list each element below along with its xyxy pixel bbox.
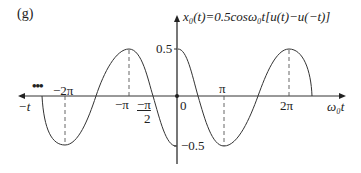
tick-neg-2pi: −2π (53, 84, 73, 97)
tick-pi: π (219, 82, 226, 95)
origin-dot (175, 94, 179, 98)
y-tick-neg-0.5: −0.5 (181, 139, 205, 152)
y-axis-arrow-icon (174, 15, 180, 22)
x-axis-left-label: −t (18, 100, 30, 113)
x-axis-label: ω₀t (327, 100, 344, 113)
tick-zero: 0 (180, 99, 187, 112)
tick-neg-pi: −π (115, 98, 129, 111)
figure: (g) x₀(t)=0.5cosω₀t[u(t)−u(−t)] ••• −2π … (0, 0, 361, 173)
panel-label: (g) (17, 7, 33, 21)
tick-2pi: 2π (280, 99, 293, 112)
tick-neg-half-pi-denominator: 2 (144, 112, 151, 125)
equation-label: x₀(t)=0.5cosω₀t[u(t)−u(−t)] (183, 10, 330, 23)
ellipsis: ••• (32, 79, 43, 92)
tick-neg-half-pi-numerator: −π (137, 98, 151, 111)
y-tick-0.5: 0.5 (156, 42, 172, 55)
